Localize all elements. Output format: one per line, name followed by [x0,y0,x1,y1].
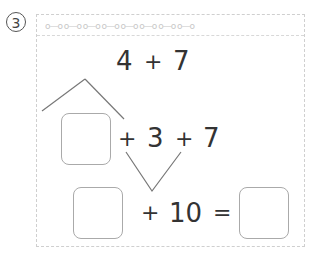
row1-plus: + [144,51,162,73]
row2-second-number: 7 [203,125,220,151]
answer-box-2[interactable] [73,187,123,239]
answer-box-result[interactable] [239,187,289,239]
answer-box-1[interactable] [61,113,111,165]
row3-plus: + [141,202,159,224]
row1-second-number: 7 [173,48,190,74]
row3-number: 10 [169,200,202,226]
row1-first-number: 4 [116,48,133,74]
row2-plus-2: + [175,128,193,150]
equals-sign: = [213,202,231,224]
row2-plus-1: + [118,128,136,150]
row2-first-number: 3 [147,125,164,151]
